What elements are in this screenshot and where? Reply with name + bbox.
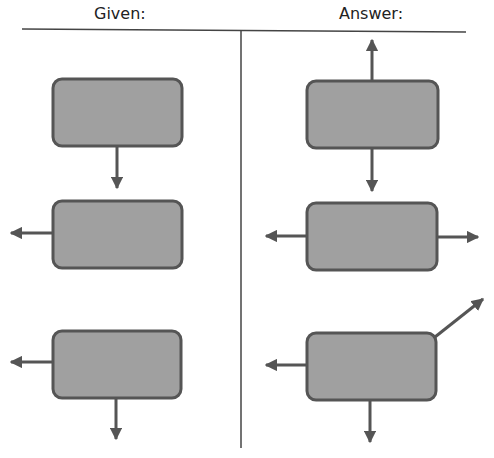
given-box-1 (53, 79, 182, 146)
answer-box-3 (307, 333, 436, 400)
given-box-3 (53, 331, 181, 398)
diagram-canvas (0, 0, 494, 458)
answer-box-2 (307, 203, 437, 270)
given-box-2 (53, 201, 182, 268)
answer-box-1 (307, 81, 438, 148)
header-rule (22, 29, 466, 32)
answer-box-3-arrow-up-right-icon (435, 299, 483, 337)
